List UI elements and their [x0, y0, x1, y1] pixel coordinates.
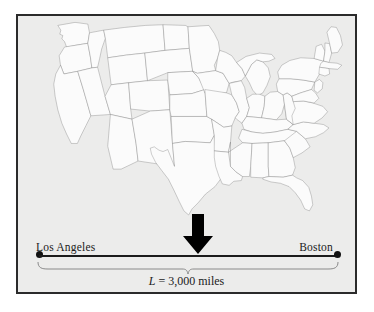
endpoint-dot-right	[334, 251, 341, 258]
caption-length: L = 3,000 miles	[18, 274, 355, 289]
label-boston: Boston	[299, 241, 333, 253]
span-brace	[36, 261, 340, 275]
figure-panel: Los Angeles Boston L = 3,000 miles	[16, 14, 357, 294]
caption-value: 3,000 miles	[168, 274, 224, 288]
label-los-angeles: Los Angeles	[36, 241, 95, 253]
caption-equals: =	[155, 274, 168, 288]
measure-line	[39, 255, 337, 257]
down-arrow-icon	[180, 214, 216, 254]
united-states-map	[26, 18, 351, 218]
